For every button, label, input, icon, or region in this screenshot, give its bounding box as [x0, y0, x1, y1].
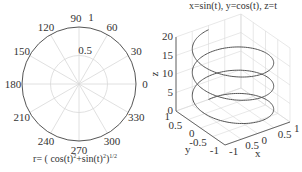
z-tick-label: 5 [168, 86, 174, 98]
x-tick-label: 0 [262, 134, 268, 146]
helix-title: x=sin(t), y=cos(t), z=t [189, 0, 277, 12]
y-tick-label: 0.5 [169, 119, 183, 131]
polar-angle-label: 300 [104, 135, 121, 147]
polar-radial-label: 1 [88, 11, 94, 23]
x-axis-label: x [255, 147, 261, 159]
figure: 03060901201501802102402703003300.51 r= (… [0, 0, 302, 172]
polar-title: r= ( cos(t)2+sin(t)2)1/2 [33, 153, 117, 165]
x-tick-label: -1 [229, 145, 238, 157]
polar-angle-label: 30 [131, 45, 143, 57]
polar-radial-label: 0.5 [78, 44, 92, 56]
polar-angle-label: 330 [128, 111, 145, 123]
polar-angle-label: 90 [71, 12, 83, 24]
polar-plot: 03060901201501802102402703003300.51 [5, 11, 149, 156]
x-tick-label: 1 [294, 122, 300, 134]
polar-angle-label: 210 [14, 111, 31, 123]
polar-angle-label: 240 [38, 135, 55, 147]
polar-angle-label: 60 [107, 21, 119, 33]
helix-line [192, 30, 273, 124]
y-tick-label: -0.5 [189, 136, 207, 148]
z-tick-label: 20 [162, 30, 174, 42]
x-tick-label: 0.5 [278, 128, 292, 140]
z-axis-label: z [148, 71, 160, 76]
polar-angle-label: 120 [38, 21, 55, 33]
y-tick-label: -1 [210, 144, 219, 156]
y-axis-label: y [185, 143, 191, 155]
z-tick-label: 15 [162, 49, 174, 61]
polar-angle-label: 0 [142, 78, 148, 90]
polar-angle-label: 150 [14, 45, 31, 57]
polar-angle-label: 180 [5, 78, 22, 90]
helix-3d-plot: 05101520z10.50-0.5-1y-10.500.51x [148, 14, 300, 159]
z-tick-label: 10 [162, 67, 174, 79]
